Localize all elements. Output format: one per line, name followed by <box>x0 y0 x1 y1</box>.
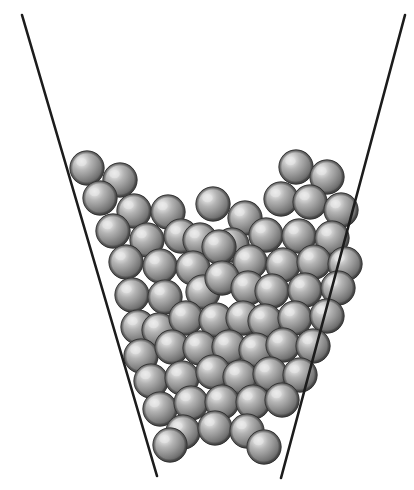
sphere-rim-shadow <box>70 151 104 185</box>
sphere-specular-highlight <box>149 256 159 264</box>
sphere-specular-highlight <box>171 368 181 376</box>
sphere-specular-highlight <box>202 362 212 370</box>
sphere-specular-highlight <box>330 200 340 208</box>
sphere-specular-highlight <box>232 308 242 316</box>
sphere-specular-highlight <box>123 201 133 209</box>
sphere-rim-shadow <box>115 278 149 312</box>
sphere-specular-highlight <box>127 317 137 325</box>
sphere-specular-highlight <box>115 252 125 260</box>
sphere-specular-highlight <box>159 435 169 443</box>
sphere-specular-highlight <box>154 287 164 295</box>
sphere-specular-highlight <box>261 281 271 289</box>
sphere <box>96 214 130 248</box>
sphere-specular-highlight <box>288 226 298 234</box>
sphere-specular-highlight <box>204 418 214 426</box>
sphere-specular-highlight <box>245 340 255 348</box>
sphere-specular-highlight <box>284 308 294 316</box>
sphere-specular-highlight <box>136 230 146 238</box>
figure-canvas <box>0 0 414 490</box>
sphere <box>265 383 299 417</box>
sphere-specular-highlight <box>157 202 167 210</box>
sphere-specular-highlight <box>192 282 202 290</box>
sphere-rim-shadow <box>293 185 327 219</box>
sphere <box>202 230 236 264</box>
sphere-rim-shadow <box>83 181 117 215</box>
sphere-specular-highlight <box>289 365 299 373</box>
sphere-specular-highlight <box>121 285 131 293</box>
sphere-specular-highlight <box>211 268 221 276</box>
sphere-rim-shadow <box>109 245 143 279</box>
sphere <box>279 150 313 184</box>
sphere <box>143 249 177 283</box>
sphere-specular-highlight <box>161 337 171 345</box>
sphere-specular-highlight <box>237 278 247 286</box>
sphere-specular-highlight <box>170 226 180 234</box>
sphere-specular-highlight <box>239 252 249 260</box>
sphere-rim-shadow <box>247 430 281 464</box>
sphere <box>83 181 117 215</box>
sphere-specular-highlight <box>254 311 264 319</box>
sphere-specular-highlight <box>234 208 244 216</box>
sphere-specular-highlight <box>285 157 295 165</box>
sphere <box>255 274 289 308</box>
sphere-specular-highlight <box>321 228 331 236</box>
sphere-specular-highlight <box>89 188 99 196</box>
granular-packing-figure <box>0 0 414 490</box>
sphere <box>196 187 230 221</box>
sphere-specular-highlight <box>130 346 140 354</box>
sphere-specular-highlight <box>253 437 263 445</box>
sphere-specular-highlight <box>242 392 252 400</box>
sphere-rim-shadow <box>279 150 313 184</box>
sphere-rim-shadow <box>196 187 230 221</box>
sphere-specular-highlight <box>211 392 221 400</box>
sphere-specular-highlight <box>202 194 212 202</box>
sphere-specular-highlight <box>148 320 158 328</box>
sphere-specular-highlight <box>302 336 312 344</box>
sphere-specular-highlight <box>218 337 228 345</box>
sphere-specular-highlight <box>189 338 199 346</box>
sphere-specular-highlight <box>102 221 112 229</box>
sphere <box>198 411 232 445</box>
sphere-specular-highlight <box>316 167 326 175</box>
sphere-specular-highlight <box>149 399 159 407</box>
sphere-rim-shadow <box>202 230 236 264</box>
sphere-specular-highlight <box>271 390 281 398</box>
sphere-specular-highlight <box>140 371 150 379</box>
sphere-rim-shadow <box>265 383 299 417</box>
sphere-specular-highlight <box>109 170 119 178</box>
sphere-specular-highlight <box>294 280 304 288</box>
sphere <box>153 428 187 462</box>
sphere <box>70 151 104 185</box>
sphere-rim-shadow <box>255 274 289 308</box>
sphere-specular-highlight <box>236 421 246 429</box>
sphere <box>115 278 149 312</box>
sphere <box>247 430 281 464</box>
sphere-rim-shadow <box>143 249 177 283</box>
sphere-specular-highlight <box>303 252 313 260</box>
sphere-specular-highlight <box>182 258 192 266</box>
sphere <box>109 245 143 279</box>
sphere-specular-highlight <box>299 192 309 200</box>
sphere-rim-shadow <box>153 428 187 462</box>
sphere-specular-highlight <box>272 335 282 343</box>
sphere-specular-highlight <box>189 230 199 238</box>
sphere-specular-highlight <box>272 255 282 263</box>
sphere-specular-highlight <box>229 367 239 375</box>
sphere-specular-highlight <box>205 310 215 318</box>
sphere-specular-highlight <box>175 308 185 316</box>
sphere-rim-shadow <box>96 214 130 248</box>
sphere-specular-highlight <box>259 364 269 372</box>
sphere-rim-shadow <box>198 411 232 445</box>
sphere-specular-highlight <box>270 189 280 197</box>
sphere-specular-highlight <box>76 158 86 166</box>
sphere-specular-highlight <box>180 393 190 401</box>
sphere-specular-highlight <box>208 237 218 245</box>
sphere <box>293 185 327 219</box>
sphere-specular-highlight <box>255 225 265 233</box>
